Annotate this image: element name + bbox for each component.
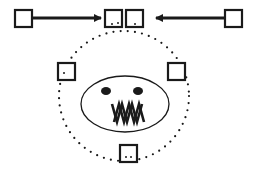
node-circle-bottom	[120, 145, 137, 162]
node-top-right-inner	[126, 10, 143, 27]
face	[81, 76, 169, 132]
node-outer-right	[225, 10, 242, 27]
node-outer-left	[15, 10, 32, 27]
left-eye-icon	[101, 87, 111, 95]
diagram-canvas	[0, 0, 255, 174]
face-outline	[81, 76, 169, 132]
node-marker-dot	[130, 156, 132, 158]
node-circle-right	[168, 63, 185, 80]
node-marker-dot	[134, 23, 136, 25]
node-marker-dot	[117, 22, 119, 24]
right-eye-icon	[133, 87, 143, 95]
node-top-left-inner	[105, 10, 122, 27]
node-marker-dot	[63, 72, 65, 74]
node-marker-dot	[125, 156, 127, 158]
node-circle-left	[58, 63, 75, 80]
node-marker-dot	[111, 23, 113, 25]
